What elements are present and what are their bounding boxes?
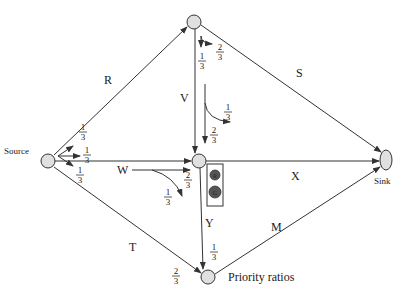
svg-text:3: 3	[218, 52, 223, 62]
top-split-arrows	[201, 36, 212, 47]
svg-text:3: 3	[174, 276, 179, 286]
ratio-source-W: 1 3	[83, 145, 91, 165]
ratio-top-S: 2 3	[216, 42, 224, 62]
svg-text:3: 3	[81, 132, 86, 142]
traffic-light: R G	[207, 164, 223, 206]
edge-R	[54, 27, 187, 155]
edge-W-label: W	[117, 163, 129, 177]
svg-text:2: 2	[218, 42, 223, 52]
edge-M	[215, 167, 380, 274]
svg-text:3: 3	[166, 197, 171, 207]
edge-M-label: M	[271, 220, 282, 234]
sink-label: Sink	[374, 176, 391, 186]
node-source	[41, 154, 55, 168]
edge-R-label: R	[104, 73, 112, 87]
svg-text:1: 1	[78, 165, 83, 175]
ratio-top-V: 1 3	[198, 51, 206, 71]
svg-text:1: 1	[81, 122, 86, 132]
node-top	[187, 15, 201, 29]
svg-text:2: 2	[212, 125, 217, 135]
svg-text:1: 1	[212, 242, 217, 252]
ratio-V-turn: 1 3	[224, 102, 232, 122]
svg-text:2: 2	[186, 170, 191, 180]
edge-Y	[200, 168, 203, 269]
svg-text:3: 3	[226, 112, 231, 122]
edge-V-label: V	[180, 91, 189, 105]
svg-text:1: 1	[200, 51, 205, 61]
edge-T	[54, 167, 201, 273]
edge-T-label: T	[129, 240, 137, 254]
svg-text:2: 2	[174, 266, 179, 276]
ratio-W-turn: 1 3	[164, 187, 172, 207]
node-middle	[192, 154, 206, 168]
ratio-Y: 1 3	[210, 242, 218, 262]
source-label: Source	[4, 146, 29, 156]
svg-text:3: 3	[200, 61, 205, 71]
edge-S	[201, 25, 381, 152]
ratio-T: 2 3	[172, 266, 180, 286]
green-light-label: G	[213, 190, 218, 196]
ratio-W-straight: 2 3	[184, 170, 192, 190]
source-split-arrows	[58, 146, 80, 166]
red-light-label: R	[213, 173, 217, 179]
svg-text:3: 3	[212, 252, 217, 262]
svg-text:1: 1	[166, 187, 171, 197]
svg-text:3: 3	[186, 180, 191, 190]
svg-text:1: 1	[226, 102, 231, 112]
edge-Y-label: Y	[205, 216, 214, 230]
edge-S-label: S	[296, 66, 303, 80]
edge-X-label: X	[291, 169, 300, 183]
svg-text:1: 1	[85, 145, 90, 155]
svg-text:3: 3	[85, 155, 90, 165]
node-bottom	[201, 270, 215, 284]
w-split-arrows	[132, 170, 190, 196]
svg-text:3: 3	[212, 135, 217, 145]
ratio-source-T: 1 3	[76, 165, 84, 185]
network-diagram: R G Source Sink Priority ratios R S V W …	[0, 0, 415, 304]
ratio-V-straight: 2 3	[210, 125, 218, 145]
svg-text:3: 3	[78, 175, 83, 185]
node-sink	[380, 150, 392, 170]
priority-ratios-label: Priority ratios	[228, 270, 295, 284]
